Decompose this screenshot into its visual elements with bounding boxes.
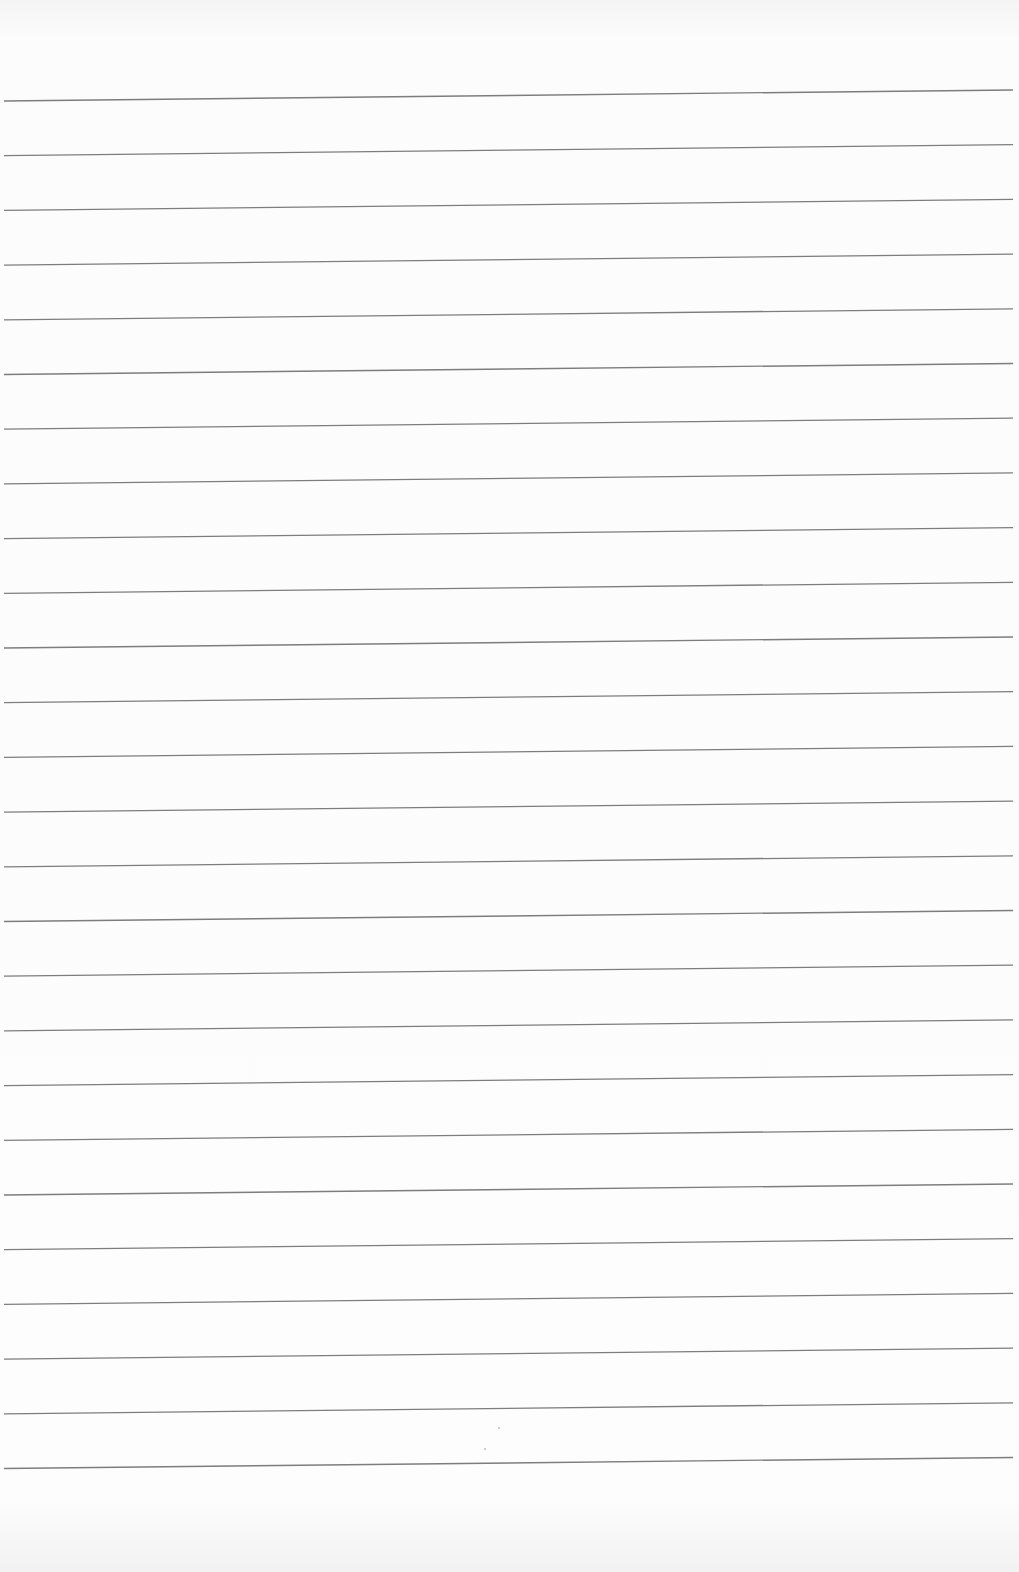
rule-line: [4, 856, 1013, 867]
rule-line: [4, 418, 1013, 429]
rule-line: [4, 911, 1013, 922]
rule-line: [4, 582, 1013, 593]
rule-line: [4, 1348, 1013, 1359]
rule-line: [4, 199, 1013, 210]
rule-line: [4, 1075, 1013, 1086]
rule-line: [4, 309, 1013, 320]
rule-line: [4, 1239, 1013, 1250]
rule-line: [4, 1184, 1013, 1195]
rule-line: [4, 692, 1013, 703]
rule-line: [4, 1020, 1013, 1031]
rule-line: [4, 364, 1013, 375]
lined-paper-sheet: [0, 0, 1019, 1572]
ruled-lines: [0, 0, 1019, 1572]
rule-line: [4, 528, 1013, 539]
rule-line: [4, 1458, 1013, 1469]
paper-speck: [484, 1448, 486, 1450]
rule-line: [4, 1403, 1013, 1414]
rule-line: [4, 1129, 1013, 1140]
rule-line: [4, 473, 1013, 484]
rule-line: [4, 965, 1013, 976]
rule-line: [4, 637, 1013, 648]
rule-line: [4, 801, 1013, 812]
rule-line: [4, 254, 1013, 265]
paper-speck: [498, 1427, 500, 1429]
rule-line: [4, 746, 1013, 757]
rule-line: [4, 90, 1013, 101]
rule-line: [4, 1293, 1013, 1304]
rule-line: [4, 145, 1013, 156]
